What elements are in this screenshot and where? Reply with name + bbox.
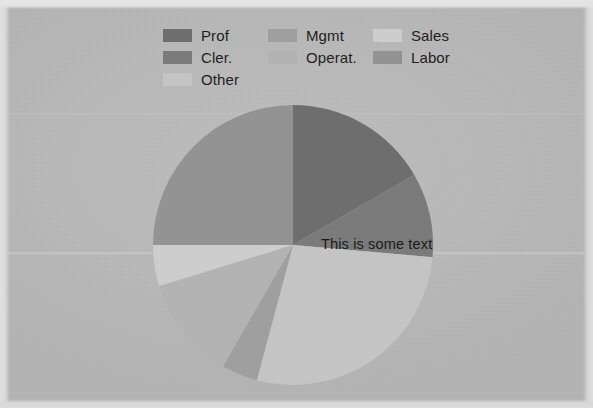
legend-label-prof: Prof (201, 28, 229, 43)
legend-label-mgmt: Mgmt (306, 28, 344, 43)
legend-label-labor: Labor (411, 50, 450, 65)
legend-label-other: Other (201, 72, 239, 87)
chart-legend: Prof Mgmt Sales Cler. Operat. Labor Othe… (163, 24, 453, 90)
legend-label-cler: Cler. (201, 50, 232, 65)
legend-swatch-other (163, 73, 192, 86)
legend-swatch-labor (373, 51, 402, 64)
legend-item-cler[interactable]: Cler. (163, 46, 268, 68)
legend-swatch-mgmt (268, 29, 297, 42)
legend-item-operat[interactable]: Operat. (268, 46, 373, 68)
legend-swatch-prof (163, 29, 192, 42)
legend-swatch-sales (373, 29, 402, 42)
pie-annotation-text: This is some text (321, 236, 432, 252)
pie-chart-figure: Prof Mgmt Sales Cler. Operat. Labor Othe… (0, 0, 593, 408)
legend-item-sales[interactable]: Sales (373, 24, 453, 46)
legend-item-labor[interactable]: Labor (373, 46, 453, 68)
legend-swatch-cler (163, 51, 192, 64)
legend-item-other[interactable]: Other (163, 68, 268, 90)
legend-swatch-operat (268, 51, 297, 64)
legend-label-operat: Operat. (306, 50, 357, 65)
legend-label-sales: Sales (411, 28, 449, 43)
legend-item-prof[interactable]: Prof (163, 24, 268, 46)
pie-slice-labor[interactable] (153, 105, 293, 245)
legend-item-mgmt[interactable]: Mgmt (268, 24, 373, 46)
